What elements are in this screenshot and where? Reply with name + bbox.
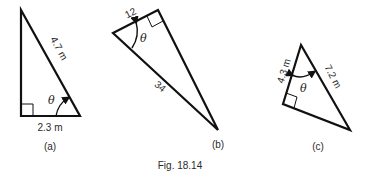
triangle-c-outline [283, 45, 350, 130]
right-angle-marker-a [21, 104, 33, 116]
triangle-b-outline [113, 10, 218, 130]
diagram-svg: θ 4.7 m 2.3 m (a) a θ 12 34 (b) θ 4.3 m … [0, 0, 374, 184]
triangle-c: θ 4.3 m 7.2 m (c) [275, 45, 350, 152]
panel-label-b: (b) [212, 139, 224, 150]
short-side-label-b: 12 [123, 5, 138, 20]
angle-arc-b [132, 22, 137, 48]
panel-label-a: (a) [44, 141, 56, 152]
angle-arc-a [56, 98, 68, 116]
hypotenuse-label-a: 4.7 m [48, 35, 70, 62]
figure-18-14: θ 4.7 m 2.3 m (a) a θ 12 34 (b) θ 4.3 m … [0, 0, 374, 184]
figure-caption: Fig. 18.14 [158, 160, 203, 171]
panel-label-c: (c) [312, 141, 324, 152]
theta-label-a: θ [48, 94, 55, 107]
triangle-a: θ 4.7 m 2.3 m (a) [21, 10, 80, 152]
theta-label-b-symbol: θ [140, 32, 147, 45]
triangle-b: a θ 12 34 (b) [113, 5, 224, 150]
theta-label-c: θ [300, 82, 307, 95]
adjacent-label-a: 2.3 m [37, 122, 62, 133]
angle-arc-c [292, 72, 314, 77]
